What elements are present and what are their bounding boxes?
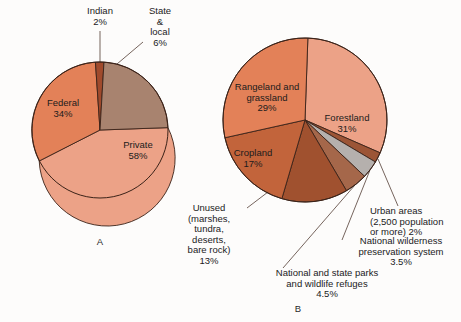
leader-unused bbox=[247, 192, 268, 208]
pie-b-label-cropland: Cropland 17% bbox=[222, 148, 284, 169]
pie-b-label-urban: Urban areas (2,500 population or more) 2… bbox=[370, 206, 461, 238]
pie-b-label-unused: Unused (marshes, tundra, deserts, bare r… bbox=[170, 203, 248, 266]
pie-a-panel-letter: A bbox=[88, 236, 112, 247]
pie-a-slice-state-local[interactable] bbox=[100, 62, 168, 130]
figure-canvas: .slice { stroke: #3b2218; stroke-width: … bbox=[0, 0, 461, 322]
pie-a-label-indian: Indian 2% bbox=[72, 6, 128, 27]
pie-b-panel-letter: B bbox=[286, 303, 310, 314]
pie-a-label-state-local: State & local 6% bbox=[134, 6, 186, 48]
pie-a-label-federal: Federal 34% bbox=[32, 98, 94, 119]
leader-urban bbox=[378, 159, 398, 206]
pie-b-label-forestland: Forestland 31% bbox=[312, 113, 382, 134]
pie-b-label-parks: National and state parks and wildlife re… bbox=[264, 268, 390, 300]
pie-b-label-wilderness: National wilderness preservation system … bbox=[345, 236, 457, 268]
pie-b-label-rangeland: Rangeland and grassland 29% bbox=[222, 82, 312, 114]
pie-a-label-private: Private 58% bbox=[108, 140, 168, 161]
